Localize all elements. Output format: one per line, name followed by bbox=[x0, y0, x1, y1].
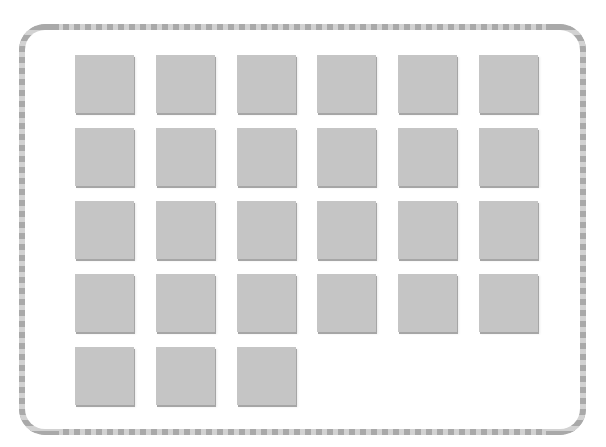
tile-r4-c5[interactable] bbox=[398, 274, 457, 332]
tile-r2-c3[interactable] bbox=[237, 128, 296, 186]
tile-r4-c1[interactable] bbox=[75, 274, 134, 332]
tile-r4-c2[interactable] bbox=[156, 274, 215, 332]
tile-r3-c4[interactable] bbox=[317, 201, 376, 259]
tile-r1-c3[interactable] bbox=[237, 55, 296, 113]
tile-r4-c4[interactable] bbox=[317, 274, 376, 332]
tile-r4-c3[interactable] bbox=[237, 274, 296, 332]
tile-r2-c2[interactable] bbox=[156, 128, 215, 186]
tile-r2-c6[interactable] bbox=[479, 128, 538, 186]
tile-r3-c1[interactable] bbox=[75, 201, 134, 259]
tile-r3-c6[interactable] bbox=[479, 201, 538, 259]
tile-r3-c5[interactable] bbox=[398, 201, 457, 259]
tile-r2-c5[interactable] bbox=[398, 128, 457, 186]
tile-grid bbox=[75, 55, 538, 405]
tile-r5-c1[interactable] bbox=[75, 347, 134, 405]
tile-r1-c1[interactable] bbox=[75, 55, 134, 113]
cropped-header-text bbox=[0, 0, 606, 4]
tile-r3-c2[interactable] bbox=[156, 201, 215, 259]
tile-r5-c2[interactable] bbox=[156, 347, 215, 405]
tile-r1-c4[interactable] bbox=[317, 55, 376, 113]
tile-r4-c6[interactable] bbox=[479, 274, 538, 332]
tile-r1-c6[interactable] bbox=[479, 55, 538, 113]
tile-r1-c5[interactable] bbox=[398, 55, 457, 113]
tile-r5-c3[interactable] bbox=[237, 347, 296, 405]
tile-r1-c2[interactable] bbox=[156, 55, 215, 113]
tile-r2-c1[interactable] bbox=[75, 128, 134, 186]
tile-r3-c3[interactable] bbox=[237, 201, 296, 259]
tile-r2-c4[interactable] bbox=[317, 128, 376, 186]
